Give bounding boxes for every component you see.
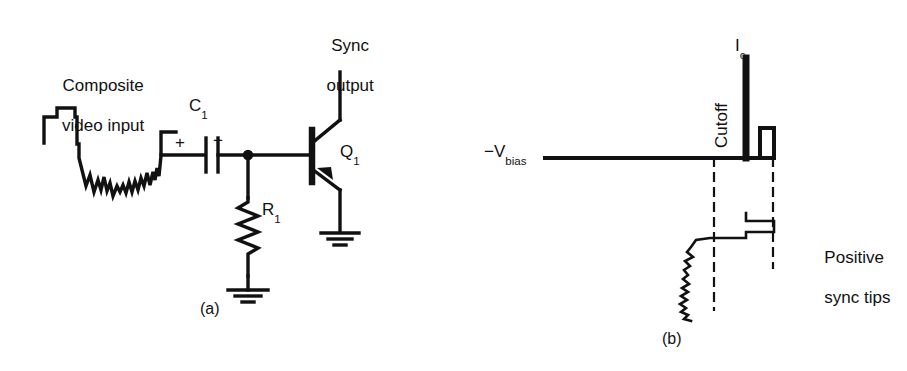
junction-dot-icon: [243, 150, 253, 160]
panel-a-circuit: Composite video input Sync output C1 + −…: [0, 0, 460, 371]
secondary-current-bar-icon: [760, 128, 774, 158]
panel-a-schematic: [0, 0, 460, 371]
composite-video-waveform-icon: [44, 108, 176, 196]
panel-b-waveform: −Vbias Ic Cutoff Positive sync tips (b): [440, 0, 907, 371]
transistor-collector-lead: [312, 120, 340, 143]
panel-b-plot: [440, 0, 907, 371]
rotated-video-waveform-icon: [680, 213, 774, 321]
resistor-icon: [238, 198, 258, 276]
figure-root: Composite video input Sync output C1 + −…: [0, 0, 907, 371]
